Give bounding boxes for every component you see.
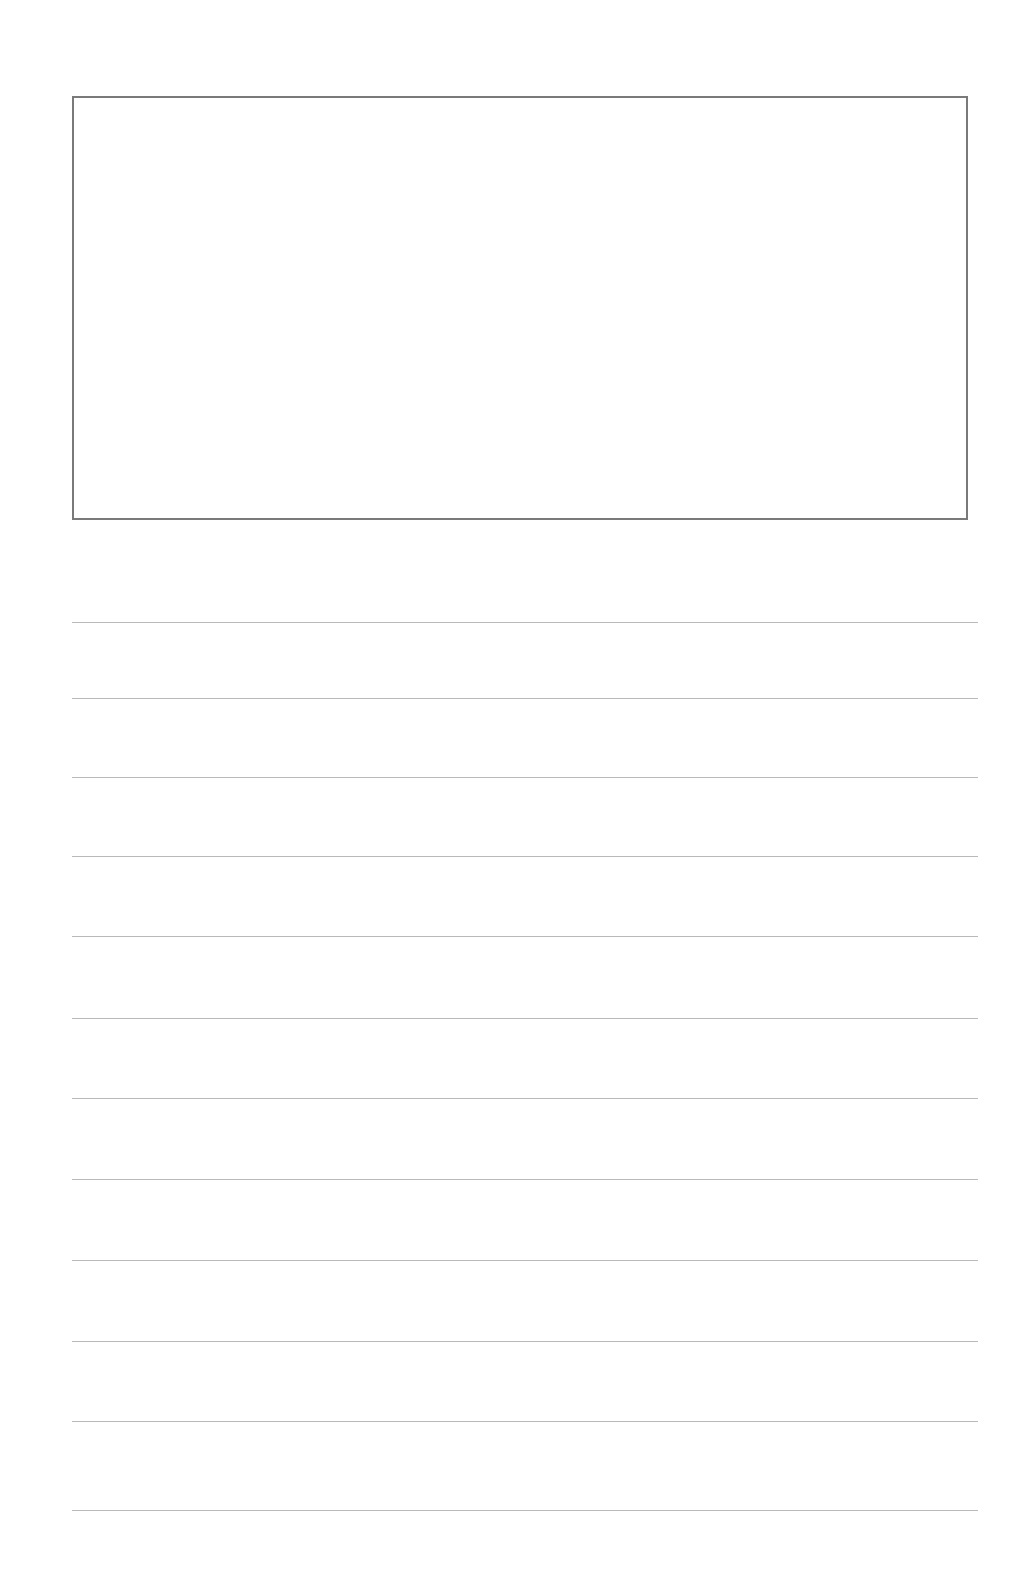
writing-line bbox=[72, 1510, 978, 1511]
drawing-box bbox=[72, 96, 968, 520]
writing-line bbox=[72, 1179, 978, 1180]
writing-line bbox=[72, 622, 978, 623]
writing-line bbox=[72, 1018, 978, 1019]
writing-line bbox=[72, 1260, 978, 1261]
writing-line bbox=[72, 856, 978, 857]
writing-line bbox=[72, 1421, 978, 1422]
writing-line bbox=[72, 936, 978, 937]
writing-line bbox=[72, 777, 978, 778]
writing-line bbox=[72, 1098, 978, 1099]
writing-line bbox=[72, 698, 978, 699]
writing-line bbox=[72, 1341, 978, 1342]
